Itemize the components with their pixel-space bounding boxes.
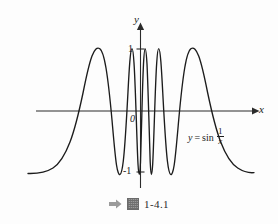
figure-caption: 1-4.1 (0, 198, 278, 210)
equation-lhs: y (188, 133, 192, 143)
origin-label: 0 (130, 114, 135, 124)
sin-one-over-x-plot (0, 0, 278, 224)
equation-denominator: x (217, 137, 223, 146)
curve-equation-annotation: y = sin 1 x (188, 128, 224, 147)
figure-container: y x 1 -1 0 y = sin 1 x 1-4.1 (0, 0, 278, 224)
y-tick-label-negative-one: -1 (123, 166, 131, 176)
figure-caption-text: 1-4.1 (144, 199, 169, 210)
equation-equals-sign: = (194, 133, 200, 143)
y-axis-label: y (134, 14, 139, 25)
equation-sin-function: sin (202, 133, 214, 143)
equation-fraction: 1 x (217, 127, 224, 146)
x-axis (36, 107, 260, 114)
figure-char-icon (127, 198, 139, 210)
y-tick-label-positive-one: 1 (128, 44, 133, 54)
right-arrow-icon (109, 199, 122, 209)
equation-numerator: 1 (217, 127, 224, 136)
x-axis-label: x (259, 104, 264, 115)
